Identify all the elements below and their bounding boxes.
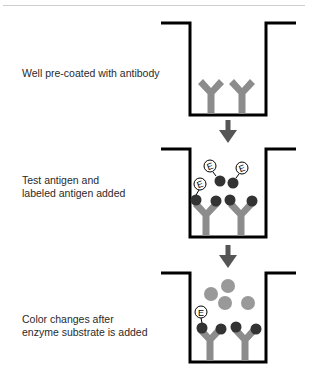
- antigen-icon: [197, 323, 208, 334]
- antigen-icon: [225, 195, 236, 206]
- color-product-icon: [204, 287, 218, 301]
- antigen-icon: [216, 324, 227, 335]
- antigen-icon: [191, 195, 202, 206]
- enzyme-label-icon: E: [204, 160, 216, 176]
- antigen-icon: [211, 196, 222, 207]
- well-1: [161, 23, 296, 115]
- antigen-icon: [247, 196, 258, 207]
- antigen-icon: [228, 178, 239, 189]
- antibody-icon: [198, 79, 224, 114]
- antibody-icon: [228, 201, 254, 236]
- antibody-icon: [229, 79, 255, 114]
- antigen-icon: [251, 324, 262, 335]
- color-product-icon: [218, 296, 232, 310]
- enzyme-label-icon: E: [195, 306, 207, 323]
- enzyme-label-icon: E: [194, 178, 206, 195]
- well-2: E E E: [161, 149, 296, 237]
- enzyme-label-icon: E: [236, 162, 248, 178]
- antigen-icon: [231, 322, 242, 333]
- antigen-icon: [215, 176, 226, 187]
- arrow-down-icon: [219, 120, 237, 143]
- elisa-diagram: E E E E: [0, 0, 315, 375]
- arrow-down-icon: [219, 245, 237, 268]
- color-product-icon: [241, 296, 255, 310]
- well-3: E: [161, 273, 296, 362]
- color-product-icon: [221, 279, 235, 293]
- svg-text:E: E: [198, 308, 204, 318]
